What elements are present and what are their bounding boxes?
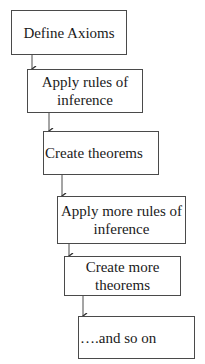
node-label: Create more theorems [79,258,166,294]
node-label: Create theorems [45,144,143,162]
node-create-more-theorems: Create more theorems [64,256,181,296]
node-define-axioms: Define Axioms [11,10,127,55]
node-apply-rules: Apply rules of inference [27,69,143,113]
node-and-so-on: ….and so on [78,316,195,359]
node-label: ….and so on [80,329,156,347]
node-label: Apply more rules of inference [60,202,183,238]
node-label: Define Axioms [23,24,114,42]
node-create-theorems: Create theorems [43,131,159,175]
node-apply-more-rules: Apply more rules of inference [57,196,186,244]
node-label: Apply rules of inference [30,73,140,109]
